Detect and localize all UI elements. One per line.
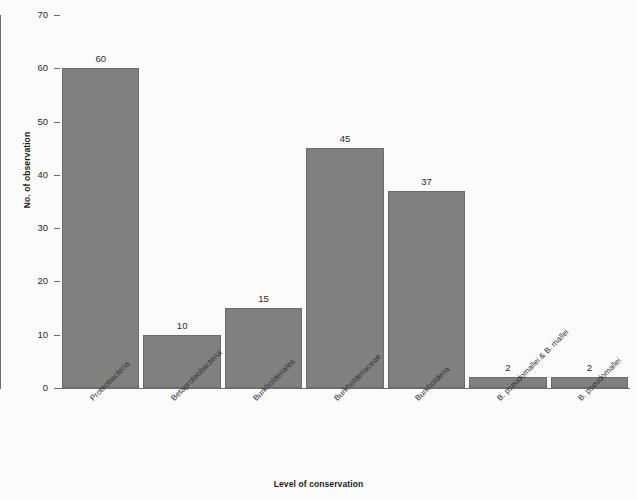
- y-axis-line: [0, 15, 1, 389]
- y-axis-tick-label: 0: [14, 383, 48, 393]
- bar-value-label: 10: [143, 321, 220, 331]
- y-axis-tick-label: 70: [14, 10, 48, 20]
- bar: [225, 308, 302, 388]
- bar: [306, 148, 383, 388]
- bar: [388, 191, 465, 388]
- y-axis-tick-label: 20: [14, 276, 48, 286]
- y-axis-tick-label: 30: [14, 223, 48, 233]
- y-axis-tick-label: 40: [14, 170, 48, 180]
- x-axis-title: Level of conservation: [0, 479, 637, 489]
- bar-chart: No. of observation 010203040506070 60101…: [0, 0, 637, 500]
- y-axis-tick-label: 10: [14, 330, 48, 340]
- y-axis-tick: [54, 388, 60, 389]
- bar-value-label: 60: [62, 54, 139, 64]
- bar-value-label: 37: [388, 177, 465, 187]
- y-axis-tick-label: 60: [14, 63, 48, 73]
- y-axis-tick-label: 50: [14, 117, 48, 127]
- bar-value-label: 45: [306, 134, 383, 144]
- bar: [62, 68, 139, 388]
- plot-area: 601015453722: [60, 15, 630, 388]
- bar-value-label: 15: [225, 294, 302, 304]
